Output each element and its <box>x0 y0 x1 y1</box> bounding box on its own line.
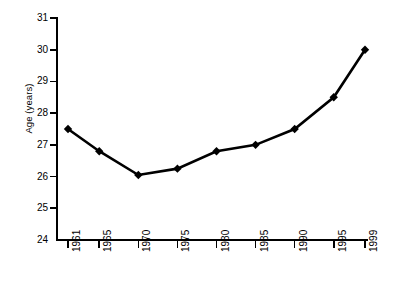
y-axis-tick <box>50 81 57 83</box>
chart-container: Age (years) 2425262728293031 19611965197… <box>0 0 394 300</box>
x-axis-tick-label: 1990 <box>299 198 309 252</box>
data-point-marker <box>212 147 220 155</box>
y-axis-tick-label: 30 <box>2 45 48 55</box>
y-axis-tick <box>50 176 57 178</box>
y-axis-tick <box>50 207 57 209</box>
series-markers <box>64 46 369 180</box>
y-axis-tick <box>50 112 57 114</box>
x-axis-tick <box>294 241 296 248</box>
y-axis-tick-label: 27 <box>2 140 48 150</box>
y-axis-tick <box>50 144 57 146</box>
data-series-layer <box>0 0 394 300</box>
data-point-marker <box>134 171 142 179</box>
x-axis-tick-label: 1975 <box>181 198 191 252</box>
x-axis-tick-label: 1980 <box>221 198 231 252</box>
y-axis-tick-label: 31 <box>2 13 48 23</box>
x-axis-tick <box>177 241 179 248</box>
x-axis-tick <box>138 241 140 248</box>
y-axis-tick-label: 25 <box>2 203 48 213</box>
x-axis-tick <box>364 241 366 248</box>
x-axis-tick <box>333 241 335 248</box>
data-point-marker <box>330 93 338 101</box>
data-point-marker <box>64 125 72 133</box>
y-axis-tick <box>50 17 57 19</box>
x-axis-tick <box>216 241 218 248</box>
x-axis-tick-label: 1995 <box>338 198 348 252</box>
series-line <box>68 50 365 175</box>
x-axis-tick-label: 1965 <box>103 198 113 252</box>
y-axis-tick <box>50 49 57 51</box>
x-axis-tick <box>98 241 100 248</box>
y-axis-tick-label: 24 <box>2 235 48 245</box>
y-axis-tick-label: 29 <box>2 76 48 86</box>
x-axis-tick-label: 1961 <box>72 198 82 252</box>
x-axis-tick-label: 1999 <box>369 198 379 252</box>
data-point-marker <box>173 164 181 172</box>
y-axis-tick-label: 28 <box>2 108 48 118</box>
x-axis-tick <box>255 241 257 248</box>
x-axis-tick-label: 1970 <box>142 198 152 252</box>
data-point-marker <box>95 147 103 155</box>
data-point-marker <box>251 141 259 149</box>
data-point-marker <box>290 125 298 133</box>
y-axis-tick-labels: 2425262728293031 <box>0 0 48 300</box>
x-axis-tick <box>67 241 69 248</box>
y-axis-tick-label: 26 <box>2 172 48 182</box>
data-point-marker <box>361 46 369 54</box>
x-axis-tick-label: 1985 <box>260 198 270 252</box>
